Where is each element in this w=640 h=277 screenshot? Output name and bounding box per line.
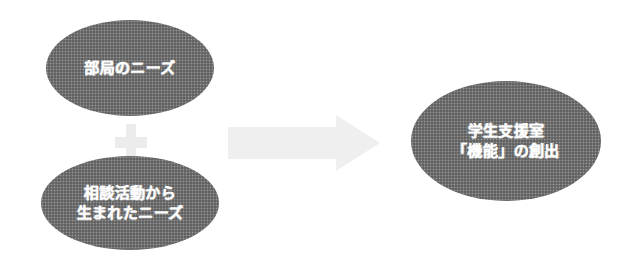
right-block-arrow-shape <box>228 115 380 171</box>
node-dept-needs: 部局のニーズ <box>46 20 214 116</box>
node-outcome-label: 学生支援室 「機能」の創出 <box>452 121 560 161</box>
node-consultation-needs-label: 相談活動から 生まれたニーズ <box>77 183 184 223</box>
node-consultation-needs: 相談活動から 生まれたニーズ <box>41 156 219 250</box>
diagram-canvas: 部局のニーズ 相談活動から 生まれたニーズ 学生支援室 「機能」の創出 <box>0 0 640 277</box>
node-outcome: 学生支援室 「機能」の創出 <box>411 81 601 201</box>
right-block-arrow-icon <box>228 113 380 173</box>
node-dept-needs-label: 部局のニーズ <box>84 58 175 78</box>
